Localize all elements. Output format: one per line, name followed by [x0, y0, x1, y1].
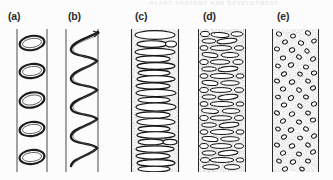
panel-e-artwork: [270, 29, 321, 172]
page-running-header: PLANT ANATOMY AND DEVELOPMENT: [150, 0, 333, 5]
panel-label-c: (c): [135, 10, 147, 22]
panel-d-artwork: [196, 29, 248, 172]
panel-label-d: (d): [203, 10, 216, 22]
panel-label-e: (e): [277, 10, 289, 22]
panel-label-a: (a): [8, 10, 20, 22]
panel-label-b: (b): [68, 10, 81, 22]
figure-xylem-thickening-patterns: PLANT ANATOMY AND DEVELOPMENT (a): [0, 0, 333, 180]
panel-a-artwork: [14, 29, 50, 172]
panel-c-artwork: [129, 29, 181, 172]
panel-b-artwork: [62, 29, 102, 172]
